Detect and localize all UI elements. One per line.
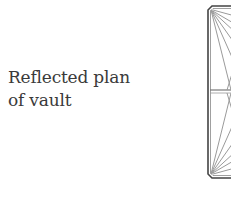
vault-plan-drawing <box>205 4 231 182</box>
diagram-caption: Reflected plan of vault <box>8 66 130 112</box>
diagonal-ribs <box>211 10 231 174</box>
caption-line-1: Reflected plan <box>8 66 130 89</box>
vault-outline <box>208 6 231 178</box>
caption-line-2: of vault <box>8 89 130 112</box>
